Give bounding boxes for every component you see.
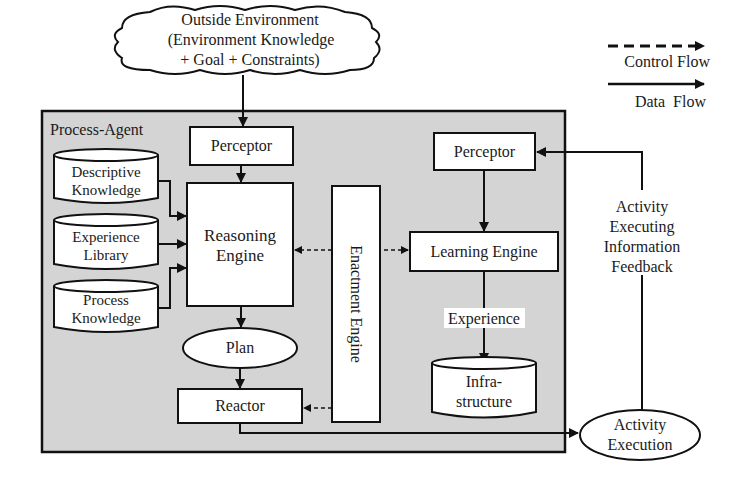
experience-label: Experience bbox=[440, 309, 528, 328]
feedback-line2: Executing bbox=[582, 217, 702, 236]
reasoning-engine-line2: Engine bbox=[187, 246, 293, 265]
experience-library-line1: Experience bbox=[54, 228, 158, 247]
feedback-line3: Information bbox=[582, 237, 702, 256]
feedback-line1: Activity bbox=[582, 197, 702, 216]
infrastructure-line2: structure bbox=[432, 392, 536, 411]
reasoning-engine-line1: Reasoning bbox=[187, 226, 293, 245]
infrastructure-line1: Infra- bbox=[432, 372, 536, 391]
legend-data-flow-label: Data Flow bbox=[600, 92, 706, 111]
feedback-line4: Feedback bbox=[582, 257, 702, 276]
enactment-engine-label: Enactment Engine bbox=[347, 204, 366, 404]
descriptive-knowledge-line2: Knowledge bbox=[54, 181, 158, 200]
perceptor-right-label: Perceptor bbox=[434, 142, 535, 161]
experience-library-line2: Library bbox=[54, 246, 158, 265]
learning-engine-label: Learning Engine bbox=[410, 242, 558, 261]
outside-environment-line2: (Environment Knowledge bbox=[120, 30, 382, 49]
outside-environment-line1: Outside Environment bbox=[130, 10, 370, 29]
plan-label: Plan bbox=[183, 338, 297, 357]
outside-environment-line3: + Goal + Constraints) bbox=[130, 50, 370, 69]
activity-execution-line1: Activity bbox=[580, 415, 700, 434]
perceptor-left-label: Perceptor bbox=[190, 136, 293, 155]
legend-control-flow-label: Control Flow bbox=[600, 52, 710, 71]
process-knowledge-line2: Knowledge bbox=[54, 309, 158, 328]
activity-execution-line2: Execution bbox=[580, 435, 700, 454]
process-agent-title: Process-Agent bbox=[50, 120, 143, 139]
process-knowledge-line1: Process bbox=[54, 291, 158, 310]
descriptive-knowledge-line1: Descriptive bbox=[54, 163, 158, 182]
reactor-label: Reactor bbox=[178, 396, 302, 415]
